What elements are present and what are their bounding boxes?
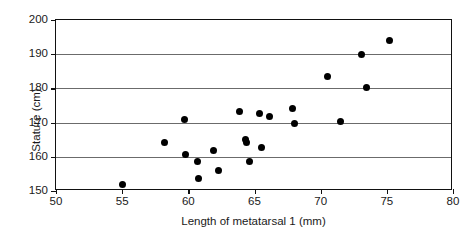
gridline-y-160 xyxy=(56,157,451,158)
data-point xyxy=(236,108,243,115)
x-tick-55 xyxy=(122,189,123,194)
data-point xyxy=(386,37,393,44)
data-point xyxy=(246,158,253,165)
data-point xyxy=(119,181,126,188)
data-point xyxy=(243,139,250,146)
gridline-y-170 xyxy=(56,123,451,124)
data-point xyxy=(256,110,263,117)
data-point xyxy=(266,113,273,120)
x-tick-label-75: 75 xyxy=(380,196,393,208)
plot-area: 150160170180190200 50556065707580 xyxy=(55,19,452,190)
y-tick-label-200: 200 xyxy=(29,14,48,26)
x-tick-label-55: 55 xyxy=(116,196,129,208)
data-point xyxy=(289,105,296,112)
x-tick-75 xyxy=(387,189,388,194)
gridline-y-190 xyxy=(56,54,451,55)
y-tick-200 xyxy=(51,20,56,21)
data-point xyxy=(161,139,168,146)
data-point xyxy=(215,167,222,174)
x-tick-60 xyxy=(188,189,189,194)
y-tick-170 xyxy=(51,123,56,124)
data-point xyxy=(181,116,188,123)
x-tick-label-50: 50 xyxy=(50,196,63,208)
x-tick-label-65: 65 xyxy=(248,196,261,208)
x-tick-label-60: 60 xyxy=(182,196,195,208)
y-tick-180 xyxy=(51,88,56,89)
x-tick-50 xyxy=(56,189,57,194)
data-point xyxy=(210,147,217,154)
data-point xyxy=(194,158,201,165)
y-tick-label-180: 180 xyxy=(29,83,48,95)
x-axis-title: Length of metatarsal 1 (mm) xyxy=(55,215,452,227)
x-tick-80 xyxy=(453,189,454,194)
data-point xyxy=(324,73,331,80)
data-point xyxy=(195,175,202,182)
y-tick-label-160: 160 xyxy=(29,151,48,163)
scatter-chart: Stature (cm) 150160170180190200 50556065… xyxy=(0,0,473,239)
x-tick-label-80: 80 xyxy=(447,196,460,208)
y-tick-label-150: 150 xyxy=(29,185,48,197)
data-point xyxy=(358,51,365,58)
data-point xyxy=(258,144,265,151)
y-tick-label-170: 170 xyxy=(29,117,48,129)
x-tick-label-70: 70 xyxy=(314,196,327,208)
y-tick-190 xyxy=(51,54,56,55)
gridline-y-180 xyxy=(56,88,451,89)
data-point xyxy=(337,118,344,125)
data-point xyxy=(182,151,189,158)
x-tick-65 xyxy=(255,189,256,194)
data-point xyxy=(363,84,370,91)
x-tick-70 xyxy=(321,189,322,194)
data-point xyxy=(291,120,298,127)
y-tick-label-190: 190 xyxy=(29,48,48,60)
y-tick-160 xyxy=(51,157,56,158)
